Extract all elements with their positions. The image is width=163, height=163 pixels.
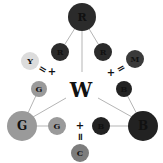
line-gbig-center <box>33 98 66 117</box>
node-red-small-left: R <box>51 43 69 61</box>
node-label: R <box>100 47 107 57</box>
node-blue-large: B <box>128 111 158 141</box>
color-mixing-diagram: R R R Y M = + + = W G <box>0 0 163 163</box>
node-label: Y <box>26 56 33 66</box>
node-blue-small-left: B <box>92 117 110 135</box>
node-label: M <box>131 54 140 64</box>
node-label: R <box>77 11 87 24</box>
equals-operator-bottom: = <box>75 133 86 141</box>
node-label: B <box>121 84 128 94</box>
node-label: G <box>54 121 61 131</box>
node-magenta: M <box>126 50 144 68</box>
node-green-small-upper: G <box>31 81 47 97</box>
node-label: G <box>17 119 27 133</box>
equals-operator-right: = <box>115 61 128 75</box>
plus-operator-left: + <box>48 66 56 77</box>
node-green-large: G <box>7 111 37 141</box>
center-white-label: W <box>69 78 93 102</box>
node-red-large: R <box>68 3 96 31</box>
node-green-small-right: G <box>48 117 66 135</box>
node-label: C <box>77 148 83 158</box>
node-red-small-right: R <box>94 43 112 61</box>
plus-operator-bottom: + <box>76 120 84 131</box>
node-label: B <box>138 119 148 133</box>
plus-operator-right: + <box>107 67 115 78</box>
line-bbig-center <box>98 98 132 117</box>
node-label: G <box>36 84 43 94</box>
node-cyan: C <box>71 144 89 162</box>
node-label: B <box>98 121 105 131</box>
diagram-canvas: R R R Y M = + + = W G <box>0 0 163 163</box>
node-blue-small-upper: B <box>116 81 132 97</box>
node-yellow: Y <box>21 52 39 70</box>
node-label: R <box>57 47 64 57</box>
